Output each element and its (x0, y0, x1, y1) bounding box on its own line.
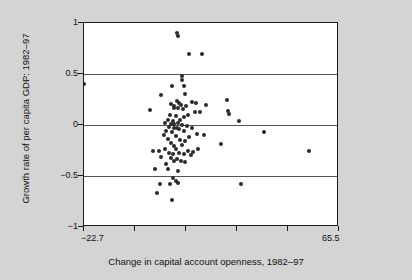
data-point (159, 93, 163, 97)
data-point (157, 149, 161, 153)
data-point (176, 181, 180, 185)
y-tick-mark (78, 22, 83, 23)
data-point (225, 98, 229, 102)
data-point (202, 133, 206, 137)
data-point (158, 182, 162, 186)
data-point (187, 135, 191, 139)
data-point (183, 92, 187, 96)
data-point (176, 34, 180, 38)
y-tick-label: 0.5 (65, 68, 78, 78)
data-point (227, 112, 231, 116)
gridline (84, 74, 337, 75)
data-point (262, 130, 266, 134)
data-point (84, 82, 86, 86)
x-tick-mark (236, 226, 237, 231)
data-point (166, 167, 170, 171)
data-point (200, 52, 204, 56)
y-axis-tick-labels: 10.50−0.5−1 (46, 0, 78, 280)
data-point (174, 134, 178, 138)
data-point (176, 169, 180, 173)
plot-area (84, 23, 337, 225)
gridline (84, 176, 337, 177)
x-tick-mark (134, 226, 135, 231)
data-point (177, 151, 181, 155)
data-point (155, 191, 159, 195)
data-point (186, 113, 190, 117)
data-point (198, 110, 202, 114)
gridline (84, 125, 337, 126)
x-tick-label: 65.5 (322, 233, 340, 244)
data-point (193, 110, 197, 114)
data-point (176, 106, 180, 110)
data-point (148, 108, 152, 112)
data-point (237, 119, 241, 123)
data-point (204, 103, 208, 107)
data-point (307, 149, 311, 153)
x-tick-mark (287, 226, 288, 231)
data-point (178, 138, 182, 142)
data-point (189, 153, 193, 157)
data-point (182, 129, 186, 133)
data-point (181, 107, 185, 111)
data-point (185, 124, 189, 128)
data-point (190, 100, 194, 104)
data-point (183, 160, 187, 164)
data-point (151, 149, 155, 153)
x-axis-title: Change in capital account openness, 1982… (0, 256, 412, 267)
data-point (162, 133, 166, 137)
x-tick-mark (83, 226, 84, 231)
y-axis-title: Growth rate of per capita GDP: 1982–97 (20, 24, 31, 214)
data-point (180, 143, 184, 147)
data-point (163, 121, 167, 125)
data-point (186, 149, 190, 153)
y-tick-label: −1 (68, 221, 78, 231)
data-point (159, 155, 163, 159)
y-tick-mark (78, 175, 83, 176)
data-point (182, 152, 186, 156)
scatter-chart-figure: 10.50−0.5−1 Growth rate of per capita GD… (0, 0, 412, 280)
data-point (194, 101, 198, 105)
data-point (179, 159, 183, 163)
y-tick-label: −0.5 (60, 170, 78, 180)
data-point (170, 84, 174, 88)
data-point (170, 198, 174, 202)
data-point (219, 142, 223, 146)
data-point (172, 159, 176, 163)
data-point (239, 182, 243, 186)
data-point (182, 84, 186, 88)
data-point (168, 113, 172, 117)
data-point (153, 167, 157, 171)
data-point (180, 123, 184, 127)
plot-frame (83, 22, 338, 226)
x-tick-mark (338, 226, 339, 231)
data-point (195, 132, 199, 136)
data-point (187, 52, 191, 56)
data-point (180, 78, 184, 82)
data-point (177, 127, 181, 131)
data-point (164, 162, 168, 166)
data-point (168, 182, 172, 186)
data-point (170, 130, 174, 134)
x-tick-mark (185, 226, 186, 231)
data-point (163, 147, 167, 151)
data-point (190, 126, 194, 130)
data-point (196, 147, 200, 151)
data-point (171, 152, 175, 156)
y-tick-mark (78, 124, 83, 125)
x-tick-label: −22.7 (81, 233, 104, 244)
data-point (167, 125, 171, 129)
data-point (174, 114, 178, 118)
y-tick-mark (78, 73, 83, 74)
